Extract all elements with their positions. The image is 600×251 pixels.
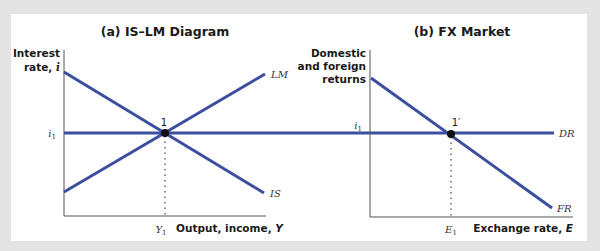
panel-a-i1-tick: i1 (48, 128, 56, 141)
islm-fx-diagram: (a) IS–LM Diagram Interest rate, i i1 LM… (0, 0, 600, 251)
panel-a-x-label: Output, income, Y (176, 222, 284, 234)
equilibrium-point-1-prime (447, 130, 455, 138)
fr-label: FR (556, 203, 572, 214)
panel-a-y-label-2: rate, i (24, 61, 60, 73)
panel-b-e1-tick: E1 (444, 224, 457, 237)
panel-b-x-label: Exchange rate, E (473, 222, 574, 234)
panel-b-y-label-1: Domestic (311, 47, 366, 59)
fr-curve (371, 78, 552, 208)
is-label: IS (269, 188, 281, 199)
panel-b-i1-tick: i1 (354, 120, 362, 133)
point-1-label: 1 (161, 117, 167, 128)
equilibrium-point-1 (161, 129, 169, 137)
panel-b-y-label-2: and foreign (298, 60, 366, 72)
point-1-prime-label: 1′ (452, 117, 461, 128)
panel-a-y-label-1: Interest (13, 47, 60, 59)
panel-b-y-label-3: returns (322, 73, 366, 85)
dr-label: DR (558, 128, 575, 139)
panel-a-y1-tick: Y1 (155, 224, 166, 237)
lm-label: LM (270, 69, 289, 80)
panel-b-title: (b) FX Market (414, 24, 511, 39)
panel-a-title: (a) IS–LM Diagram (101, 24, 230, 39)
